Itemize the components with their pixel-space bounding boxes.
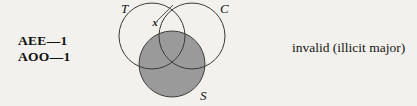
verdict-text: invalid (illicit major) xyxy=(292,40,405,56)
set-label-s: S xyxy=(200,88,207,103)
venn-diagram: x T C S xyxy=(110,0,235,106)
premise-block: AEE—1 AOO—1 xyxy=(18,33,71,65)
x-mark-label: x xyxy=(151,17,157,28)
set-label-t: T xyxy=(121,1,129,16)
premise-line-1: AEE—1 xyxy=(18,33,71,49)
x-pointer-line xyxy=(157,5,173,21)
premise-line-2: AOO—1 xyxy=(18,49,71,65)
set-label-c: C xyxy=(220,1,229,16)
figure-root: AEE—1 AOO—1 x T C S xyxy=(0,0,417,106)
